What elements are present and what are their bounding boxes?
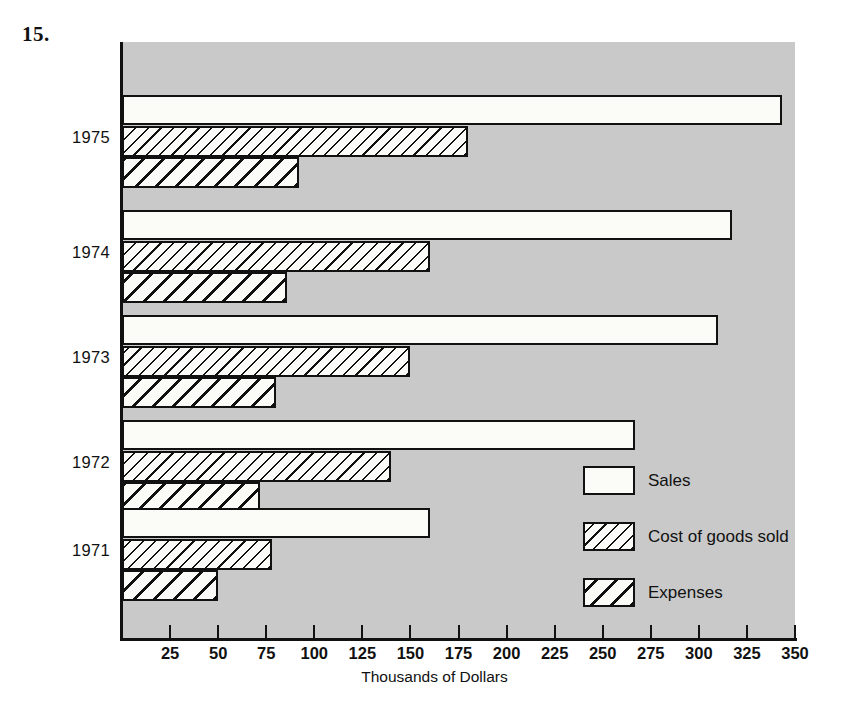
problem-number: 15. xyxy=(22,22,50,47)
x-tick-125 xyxy=(361,625,363,639)
bar-1974-expenses xyxy=(122,272,287,303)
x-tick-75 xyxy=(265,625,267,639)
x-tick-100 xyxy=(313,625,315,639)
legend-swatch-sales-icon xyxy=(583,466,635,495)
year-label-1972: 1972 xyxy=(48,453,110,472)
x-tick-250 xyxy=(602,625,604,639)
x-axis-title-text: Thousands of Dollars xyxy=(361,668,507,686)
year-label-1974: 1974 xyxy=(48,243,110,262)
legend-item-expenses: Expenses xyxy=(583,578,723,607)
x-axis-title: Thousands of Dollars xyxy=(0,668,853,686)
bar-1974-cogs xyxy=(122,241,430,272)
year-label-1971: 1971 xyxy=(48,541,110,560)
legend-item-sales: Sales xyxy=(583,466,691,495)
x-tick-25 xyxy=(169,625,171,639)
chart-page: 15. 19751974197319721971 255075100125150… xyxy=(0,0,853,702)
legend-swatch-cost-of-goods-sold-icon xyxy=(583,522,635,551)
x-tick-325 xyxy=(746,625,748,639)
x-tick-350 xyxy=(794,625,796,639)
bar-1973-sales xyxy=(122,315,718,345)
year-label-1975: 1975 xyxy=(48,128,110,147)
bar-1971-expenses xyxy=(122,570,218,601)
legend-item-cost-of-goods-sold: Cost of goods sold xyxy=(583,522,789,551)
bar-1975-cogs xyxy=(122,126,468,157)
bar-1973-expenses xyxy=(122,377,276,408)
x-tick-label-350: 350 xyxy=(765,644,825,663)
bar-1971-sales xyxy=(122,508,430,538)
legend-label-cost-of-goods-sold: Cost of goods sold xyxy=(648,527,789,547)
year-label-1973: 1973 xyxy=(48,348,110,367)
bar-1975-sales xyxy=(122,95,782,125)
bar-1974-sales xyxy=(122,210,732,240)
bar-1972-sales xyxy=(122,420,635,450)
x-tick-225 xyxy=(554,625,556,639)
bar-1975-expenses xyxy=(122,157,299,188)
legend-label-expenses: Expenses xyxy=(648,583,723,603)
legend-label-sales: Sales xyxy=(648,471,691,491)
x-tick-150 xyxy=(409,625,411,639)
x-tick-200 xyxy=(506,625,508,639)
bar-1971-cogs xyxy=(122,539,272,570)
bar-1972-cogs xyxy=(122,451,391,482)
x-tick-50 xyxy=(217,625,219,639)
x-tick-300 xyxy=(698,625,700,639)
bar-1973-cogs xyxy=(122,346,410,377)
x-tick-175 xyxy=(458,625,460,639)
x-tick-275 xyxy=(650,625,652,639)
legend-swatch-expenses-icon xyxy=(583,578,635,607)
